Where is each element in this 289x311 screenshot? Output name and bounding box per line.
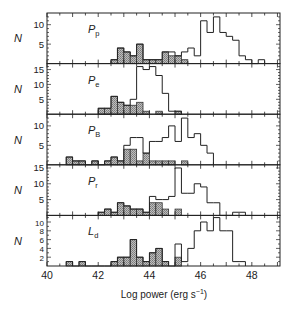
panel-p-r: 51015NPr <box>14 162 280 215</box>
y-tick-label: 6 <box>40 236 45 245</box>
hatched-bar <box>156 248 162 266</box>
hatched-bar <box>181 60 187 64</box>
hatched-bar <box>111 157 117 165</box>
x-tick-label: 44 <box>144 269 156 281</box>
hatched-bar <box>111 262 117 266</box>
hatched-bar <box>117 161 123 165</box>
hatched-bar <box>169 161 175 165</box>
hatched-bar <box>162 52 168 64</box>
hatched-bar <box>79 161 85 165</box>
hatched-bar <box>98 108 104 114</box>
y-tick-label: 8 <box>40 227 45 236</box>
y-tick-label: 10 <box>35 219 44 228</box>
hatched-bar <box>137 44 143 63</box>
hatched-bar <box>137 209 143 215</box>
panel-frame <box>47 64 280 115</box>
y-tick-label: 4 <box>40 245 45 254</box>
hatched-bar <box>117 48 123 64</box>
panel-frame <box>47 215 280 266</box>
panel-p-e: 51015NPe <box>14 64 280 115</box>
y-tick-label: 10 <box>33 79 44 90</box>
y-tick-label: 15 <box>33 162 44 173</box>
hatched-bar <box>137 161 143 165</box>
y-tick-label: 2 <box>40 254 45 263</box>
hatched-bar <box>117 102 123 114</box>
hatched-bar <box>117 257 123 266</box>
hatched-bar <box>149 253 155 266</box>
panel-label: Pr <box>88 175 98 190</box>
hatched-bar <box>149 203 155 216</box>
y-tick-label: 5 <box>39 194 44 205</box>
hatched-bar <box>111 60 117 64</box>
hatched-bar <box>181 161 187 165</box>
hatched-bar <box>92 161 98 165</box>
y-tick-label: 10 <box>33 178 44 189</box>
y-axis-label: N <box>14 235 22 247</box>
hatched-bar <box>149 161 155 165</box>
x-axis-label: Log power (erg s−1) <box>121 288 207 300</box>
y-axis-label: N <box>14 184 22 196</box>
hatched-bar <box>117 203 123 216</box>
hatched-bar <box>175 257 181 266</box>
y-axis-label: N <box>14 32 22 44</box>
hatched-bar <box>175 56 181 64</box>
hatched-bar <box>169 56 175 64</box>
hatched-bar <box>143 60 149 64</box>
hatched-bar <box>156 203 162 216</box>
panel-p-p: 510NPp <box>14 13 280 64</box>
hatched-bar <box>105 108 111 114</box>
hatched-bar <box>162 161 168 165</box>
x-tick-label: 48 <box>246 269 258 281</box>
hatched-bar <box>130 105 136 114</box>
hatched-bar <box>124 52 130 64</box>
x-tick-label: 46 <box>195 269 207 281</box>
hatched-bar <box>111 96 117 114</box>
hatched-bar <box>137 102 143 114</box>
hatched-bar <box>124 105 130 114</box>
y-axis-label: N <box>14 83 22 95</box>
hatched-bar <box>143 262 149 266</box>
hatched-bar <box>105 161 111 165</box>
y-tick-label: 5 <box>39 39 44 50</box>
y-tick-label: 5 <box>39 140 44 151</box>
hatched-bar <box>156 60 162 64</box>
y-tick-label: 10 <box>33 120 44 131</box>
panel-frame <box>47 114 280 165</box>
hatched-bar <box>79 262 85 266</box>
panel-l-d: 246810NLd <box>14 215 280 266</box>
hatched-bar <box>66 157 72 165</box>
hatched-bar <box>130 240 136 266</box>
hatched-bar <box>162 209 168 215</box>
hatched-bar <box>175 209 181 215</box>
hatched-bar <box>156 161 162 165</box>
x-tick-label: 40 <box>41 269 53 281</box>
hatched-bar <box>162 262 168 266</box>
panel-label: Pe <box>88 74 100 89</box>
panel-frame <box>47 165 280 216</box>
hatched-bar <box>73 161 79 165</box>
hatched-bar <box>124 206 130 215</box>
hatched-bar <box>66 262 72 266</box>
y-tick-label: 15 <box>33 64 44 75</box>
y-tick-label: 5 <box>39 94 44 105</box>
hatched-bar <box>130 209 136 215</box>
hatched-bar <box>105 209 111 215</box>
hatched-bar <box>124 149 130 165</box>
hatched-bar <box>137 257 143 266</box>
panel-label: Ld <box>88 225 98 240</box>
panel-label: PB <box>88 124 100 139</box>
panel-p-b: 510NPB <box>14 114 280 165</box>
panel-label: Pp <box>88 23 100 38</box>
hatched-bar <box>143 153 149 165</box>
y-axis-label: N <box>14 134 22 146</box>
chart: 510NPp51015NPe510NPB51015NPr246810NLd 40… <box>0 0 289 311</box>
hatched-bar <box>130 56 136 64</box>
hatched-bar <box>124 257 130 266</box>
x-tick-label: 42 <box>92 269 104 281</box>
hatched-bar <box>149 60 155 64</box>
y-tick-label: 10 <box>33 19 44 30</box>
hatched-bar <box>130 149 136 165</box>
